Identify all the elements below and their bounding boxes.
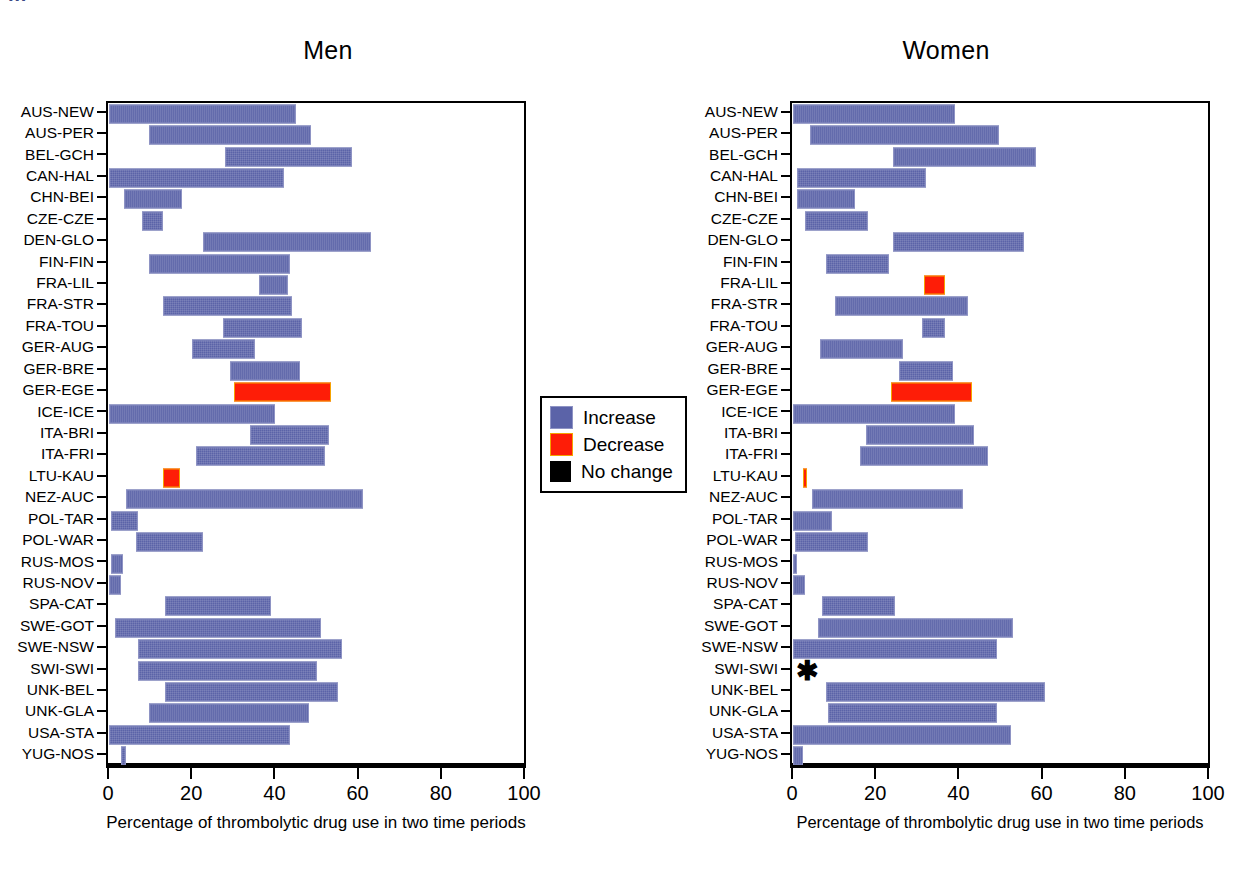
y-tick-label: FRA-STR (711, 295, 790, 313)
x-axis-men: Percentage of thrombolytic drug use in t… (106, 765, 526, 825)
bar-row (792, 403, 1208, 424)
x-axis-line (790, 765, 1210, 768)
bar-row (108, 681, 524, 702)
x-tick (874, 768, 876, 779)
legend-label-no-change: No change (581, 461, 673, 483)
y-tick-label: GER-BRE (707, 360, 790, 378)
bar-row (108, 124, 524, 145)
bar-bel-gch-increase (893, 147, 1036, 166)
y-tick-label: BEL-GCH (709, 146, 790, 164)
bar-fra-tou-increase (922, 318, 945, 337)
y-tick-label: POL-WAR (706, 531, 790, 549)
bar-row (108, 296, 524, 317)
bar-row (108, 189, 524, 210)
x-tick-label: 40 (263, 782, 285, 805)
y-tick-label: GER-AUG (706, 338, 790, 356)
bar-den-glo-increase (893, 233, 1024, 252)
bar-rus-mos-increase (111, 554, 123, 573)
bar-row (792, 467, 1208, 488)
bar-ita-bri-increase (250, 425, 329, 444)
bar-can-hal-increase (109, 168, 284, 187)
bar-nez-auc-increase (812, 490, 964, 509)
bar-row (108, 467, 524, 488)
y-tick-label: DEN-GLO (23, 231, 106, 249)
bar-ice-ice-increase (793, 404, 955, 423)
x-tick (440, 768, 442, 779)
bar-row (108, 596, 524, 617)
legend-swatch-decrease-icon (550, 433, 573, 456)
y-tick-label: UNK-GLA (709, 702, 790, 720)
bar-ger-bre-increase (899, 361, 953, 380)
bar-row (108, 574, 524, 595)
bar-fra-lil-increase (259, 276, 288, 295)
y-tick-label: SWE-NSW (17, 638, 106, 656)
bar-row (108, 232, 524, 253)
x-tick-label: 100 (1191, 782, 1224, 805)
bar-cze-cze-increase (805, 211, 867, 230)
bar-row (792, 596, 1208, 617)
legend-item-decrease: Decrease (550, 431, 673, 458)
y-tick-label: AUS-PER (709, 124, 790, 142)
legend-swatch-no-change-icon (550, 461, 571, 482)
bar-row (108, 381, 524, 402)
bar-row (108, 553, 524, 574)
bar-row (792, 124, 1208, 145)
y-tick-label: SWE-NSW (701, 638, 790, 656)
bar-row (792, 424, 1208, 445)
bar-row (792, 167, 1208, 188)
y-tick-label: BEL-GCH (25, 146, 106, 164)
legend: Increase Decrease No change (540, 396, 687, 493)
y-tick-label: YUG-NOS (706, 745, 790, 763)
bar-usa-sta-increase (109, 725, 290, 744)
bar-pol-tar-increase (793, 511, 832, 530)
x-tick-label: 80 (430, 782, 452, 805)
x-tick (1207, 768, 1209, 779)
bar-row (108, 253, 524, 274)
y-tick-label: POL-TAR (712, 510, 790, 528)
legend-label-decrease: Decrease (583, 434, 664, 456)
bar-row (792, 103, 1208, 124)
y-tick-label: SPA-CAT (713, 595, 790, 613)
y-tick-label: UNK-GLA (25, 702, 106, 720)
panel-men: Men AUS-NEWAUS-PERBEL-GCHCAN-HALCHN-BEIC… (0, 0, 626, 870)
bar-den-glo-increase (203, 233, 371, 252)
x-tick (273, 768, 275, 779)
y-tick-label: LTU-KAU (713, 467, 790, 485)
bar-row (108, 746, 524, 767)
bar-fin-fin-increase (149, 254, 290, 273)
bar-row (108, 403, 524, 424)
bar-row (792, 253, 1208, 274)
y-tick-label: AUS-PER (25, 124, 106, 142)
bar-unk-gla-increase (828, 704, 996, 723)
y-tick-label: CAN-HAL (710, 167, 790, 185)
bar-row (108, 703, 524, 724)
bar-row (792, 339, 1208, 360)
y-axis-labels-women: AUS-NEWAUS-PERBEL-GCHCAN-HALCHN-BEICZE-C… (670, 101, 790, 765)
y-tick-label: ITA-FRI (41, 445, 106, 463)
y-tick-label: FRA-STR (27, 295, 106, 313)
bar-row (108, 146, 524, 167)
bar-row (108, 210, 524, 231)
bar-row (792, 232, 1208, 253)
bar-cze-cze-increase (142, 211, 163, 230)
legend-swatch-increase-icon (550, 406, 573, 429)
x-tick (357, 768, 359, 779)
y-tick-label: CZE-CZE (27, 210, 106, 228)
bar-row (792, 489, 1208, 510)
bar-swi-swi-increase (138, 661, 317, 680)
y-tick-label: POL-WAR (22, 531, 106, 549)
y-tick-label: ICE-ICE (721, 403, 790, 421)
y-tick-label: SWE-GOT (20, 617, 106, 635)
y-tick-label: CAN-HAL (26, 167, 106, 185)
bar-can-hal-increase (797, 168, 926, 187)
y-tick-label: SWI-SWI (714, 660, 790, 678)
bar-swe-got-increase (818, 618, 1013, 637)
bar-nez-auc-increase (126, 490, 363, 509)
bar-swe-nsw-increase (793, 640, 997, 659)
x-tick (523, 768, 525, 779)
bar-rows-men (108, 103, 524, 763)
bar-row (792, 681, 1208, 702)
bar-row (108, 638, 524, 659)
y-tick-label: ICE-ICE (37, 403, 106, 421)
bar-ger-ege-decrease (891, 383, 972, 402)
